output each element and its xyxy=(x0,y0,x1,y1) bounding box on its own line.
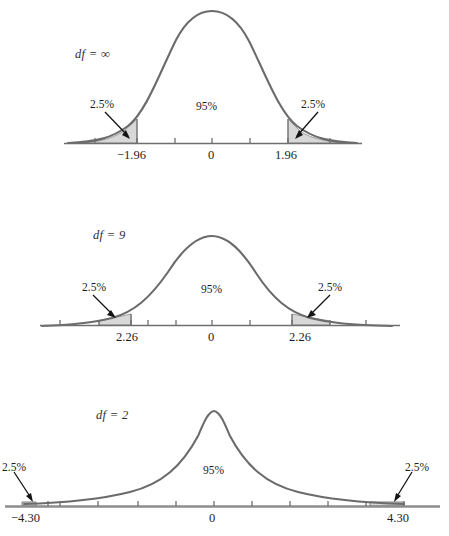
left-tail-arrow xyxy=(93,295,116,318)
tick-label-left: −4.30 xyxy=(11,511,40,526)
t2-curve-plot xyxy=(0,360,449,536)
t9-curve-plot xyxy=(0,180,449,360)
df-label: df = 9 xyxy=(93,228,125,243)
right-tail-percent-label: 2.5% xyxy=(405,461,429,473)
distribution-panel-df-2: df = 2 2.5% 2.5% 95% −4.30 0 4.30 xyxy=(0,360,449,536)
tick-label-center: 0 xyxy=(209,511,215,526)
center-percent-label: 95% xyxy=(203,464,224,476)
right-tail-arrow xyxy=(394,472,412,502)
distribution-panel-df-9: df = 9 2.5% 2.5% 95% 2.26 0 2.26 xyxy=(0,180,449,360)
left-tail-percent-label: 2.5% xyxy=(90,98,114,110)
tick-label-right: 1.96 xyxy=(275,148,297,163)
left-tail-percent-label: 2.5% xyxy=(82,281,106,293)
distribution-panel-df-infinity: df = ∞ 2.5% 2.5% 95% −1.96 0 1.96 xyxy=(0,0,449,180)
normal-curve-plot xyxy=(0,0,449,180)
tick-label-center: 0 xyxy=(208,148,214,163)
center-percent-label: 95% xyxy=(201,283,222,295)
right-tail-percent-label: 2.5% xyxy=(318,281,342,293)
right-tail-percent-label: 2.5% xyxy=(301,98,325,110)
density-curve xyxy=(68,11,357,143)
left-tail-percent-label: 2.5% xyxy=(2,461,26,473)
df-label: df = 2 xyxy=(96,408,128,423)
tick-label-left: −1.96 xyxy=(117,148,146,163)
tick-label-right: 2.26 xyxy=(289,330,311,345)
center-percent-label: 95% xyxy=(196,100,217,112)
tick-label-right: 4.30 xyxy=(387,511,409,526)
tick-label-left: 2.26 xyxy=(116,330,138,345)
density-curve xyxy=(24,411,404,504)
left-tail-arrow xyxy=(14,472,33,502)
df-label: df = ∞ xyxy=(75,47,110,62)
right-tail-arrow xyxy=(307,295,330,318)
tick-label-center: 0 xyxy=(208,330,214,345)
